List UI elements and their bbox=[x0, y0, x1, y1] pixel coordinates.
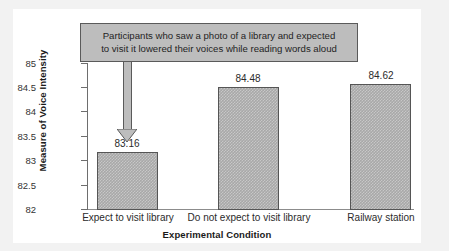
y-axis-title: Measure of Voice Intensity bbox=[37, 36, 48, 186]
y-tick-83.5 bbox=[81, 136, 88, 137]
y-tick-83 bbox=[81, 160, 88, 161]
bar-value-3: 84.62 bbox=[341, 71, 421, 81]
y-tick-label-84.5: 84.5 bbox=[0, 83, 36, 93]
y-tick-label-85: 85 bbox=[0, 59, 36, 69]
y-tick-84 bbox=[81, 111, 88, 112]
x-axis-title: Experimental Condition bbox=[13, 229, 421, 240]
y-tick-84.5 bbox=[81, 87, 88, 88]
annotation-arrow-shaft bbox=[123, 62, 132, 130]
x-category-label-2: Do not expect to visit library bbox=[163, 212, 335, 223]
bar-value-2: 84.48 bbox=[208, 74, 288, 84]
y-tick-label-83.5: 83.5 bbox=[0, 132, 36, 142]
y-tick-label-82: 82 bbox=[0, 205, 36, 215]
plot-area: Measure of Voice Intensity 85 84.5 84 83… bbox=[13, 9, 421, 243]
bar-do-not-expect-to-visit-library[interactable] bbox=[218, 87, 279, 210]
chart-figure: Measure of Voice Intensity 85 84.5 84 83… bbox=[13, 9, 421, 243]
annotation-callout-text: Participants who saw a photo of a librar… bbox=[94, 30, 344, 56]
y-tick-label-82.5: 82.5 bbox=[0, 181, 36, 191]
bar-expect-to-visit-library[interactable] bbox=[97, 152, 158, 210]
y-tick-82.5 bbox=[81, 185, 88, 186]
bar-railway-station[interactable] bbox=[350, 84, 411, 210]
y-tick-82 bbox=[81, 209, 88, 210]
annotation-callout-box: Participants who saw a photo of a librar… bbox=[80, 23, 358, 62]
x-category-label-3: Railway station bbox=[313, 212, 449, 223]
annotation-arrow-head-icon bbox=[117, 129, 137, 142]
y-tick-85 bbox=[81, 63, 88, 64]
annotation-line-1: Participants who saw a photo of a librar… bbox=[103, 30, 336, 41]
y-tick-label-84: 84 bbox=[0, 107, 36, 117]
y-tick-label-83: 83 bbox=[0, 156, 36, 166]
annotation-line-2: to visit it lowered their voices while r… bbox=[101, 43, 337, 54]
